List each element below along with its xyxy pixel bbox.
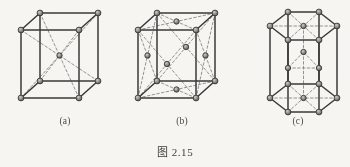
atom-face-center-9-sphere [183,44,188,49]
atom-corner-0 [285,9,291,15]
atom-midplane-15-sphere [285,65,290,70]
atom-face-center-11 [174,87,179,92]
atom-face-center-8-sphere [164,61,169,66]
atom-corner-3-sphere [76,27,82,33]
atom-basal-center-6 [301,23,306,28]
atom-corner-8-sphere [316,81,322,87]
atom-corner-3-sphere [193,27,199,33]
atom-face-center-12-sphere [145,53,150,58]
atom-face-center-12 [145,53,150,58]
atom-corner-10 [316,109,322,115]
atom-corner-7-sphere [95,10,101,16]
atom-corner-2 [334,23,340,29]
atom-corner-1 [193,95,199,101]
atom-midplane-14 [301,49,306,54]
atom-basal-center-6-sphere [301,23,306,28]
atom-face-center-8 [164,61,169,66]
atom-face-center-13-sphere [203,53,208,58]
atom-corner-5 [267,23,273,29]
atom-corner-5-sphere [267,23,273,29]
atom-corner-5 [212,78,218,84]
figure-container: (a) (b) (c) 图 2.15 [0,0,350,167]
atom-corner-9 [334,95,340,101]
atom-corner-2-sphere [18,27,24,33]
panel-label-c: (c) [278,116,318,126]
atom-corner-12-sphere [267,95,273,101]
atom-corner-11-sphere [285,109,291,115]
atom-face-center-9 [183,44,188,49]
atom-corner-12 [267,95,273,101]
atom-corner-11 [285,109,291,115]
atom-corner-5-sphere [212,78,218,84]
atom-basal-center-13-sphere [301,95,306,100]
atom-corner-1-sphere [316,9,322,15]
atom-corner-4-sphere [37,78,43,84]
atom-midplane-15 [285,65,290,70]
atom-body-center-8-sphere [57,53,62,58]
atom-corner-6-sphere [154,10,160,16]
atom-corner-4-sphere [285,37,291,43]
atom-midplane-14-sphere [301,49,306,54]
atom-corner-3 [76,27,82,33]
atom-corner-3-sphere [316,37,322,43]
atom-corner-1 [316,9,322,15]
atom-corner-9-sphere [334,95,340,101]
atom-corner-0-sphere [18,95,24,101]
atom-corner-2 [18,27,24,33]
atom-corner-2-sphere [135,27,141,33]
atom-corner-4 [37,78,43,84]
panel-label-b: (b) [162,116,202,126]
atom-basal-center-13 [301,95,306,100]
atom-face-center-13 [203,53,208,58]
atom-corner-2 [135,27,141,33]
atom-corner-10-sphere [316,109,322,115]
atom-face-center-10 [174,19,179,24]
atom-body-center-8 [57,53,62,58]
atom-corner-4 [154,78,160,84]
figure-caption: 图 2.15 [0,143,350,159]
atom-corner-7 [285,81,291,87]
atom-corner-1-sphere [76,95,82,101]
atom-corner-5 [95,78,101,84]
atom-corner-7-sphere [212,10,218,16]
atom-corner-4-sphere [154,78,160,84]
atom-corner-7 [95,10,101,16]
atom-corner-8 [316,81,322,87]
atom-corner-7-sphere [285,81,291,87]
atom-corner-0-sphere [135,95,141,101]
crystal-structures-svg [0,0,350,167]
atom-corner-7 [212,10,218,16]
atom-corner-1-sphere [193,95,199,101]
atom-corner-3 [193,27,199,33]
atom-corner-6 [154,10,160,16]
atom-corner-6 [37,10,43,16]
atom-corner-4 [285,37,291,43]
atom-face-center-10-sphere [174,19,179,24]
atom-corner-1 [76,95,82,101]
atom-midplane-16 [316,65,321,70]
panel-label-a: (a) [45,116,85,126]
atom-midplane-16-sphere [316,65,321,70]
atom-corner-3 [316,37,322,43]
atom-corner-5-sphere [95,78,101,84]
atom-face-center-11-sphere [174,87,179,92]
atom-corner-0 [18,95,24,101]
atom-corner-6-sphere [37,10,43,16]
atom-corner-0 [135,95,141,101]
atom-corner-2-sphere [334,23,340,29]
atom-corner-0-sphere [285,9,291,15]
